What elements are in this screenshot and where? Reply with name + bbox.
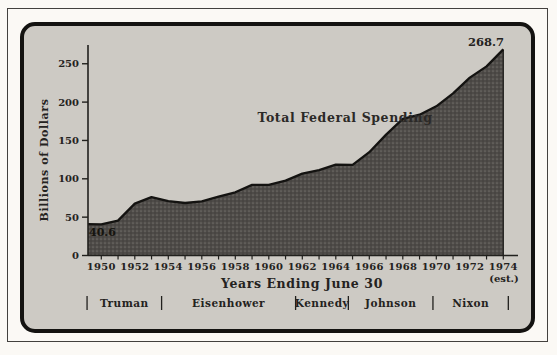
page-background: 0501001502002501950195219541956195819601… — [0, 0, 557, 355]
x-tick-label: 1966 — [355, 261, 384, 272]
president-label-johnson: Johnson — [364, 297, 416, 309]
y-tick-label: 250 — [58, 58, 79, 69]
y-tick-label: 0 — [72, 250, 79, 261]
x-tick-label: 1958 — [221, 261, 250, 272]
spending-area — [88, 49, 503, 255]
x-tick-label: 1972 — [455, 261, 484, 272]
y-tick-label: 150 — [58, 135, 79, 146]
x-tick-label: 1962 — [288, 261, 317, 272]
president-label-truman: Truman — [100, 297, 149, 309]
chart-panel: 0501001502002501950195219541956195819601… — [20, 22, 535, 333]
x-tick-label: 1954 — [154, 261, 183, 272]
president-label-nixon: Nixon — [452, 297, 489, 309]
x-tick-label: 1964 — [321, 261, 350, 272]
y-tick-label: 200 — [58, 97, 79, 108]
estimate-note: (est.) — [478, 273, 530, 284]
x-tick-label: 1968 — [388, 261, 417, 272]
x-tick-label: 1950 — [87, 261, 116, 272]
x-tick-label: 1970 — [422, 261, 451, 272]
president-label-kennedy: Kennedy — [295, 297, 350, 309]
start-value-annotation: 40.6 — [89, 226, 116, 239]
x-axis-title: Years Ending June 30 — [221, 276, 383, 291]
x-tick-label: 1956 — [187, 261, 216, 272]
president-label-eisenhower: Eisenhower — [192, 297, 265, 309]
y-tick-label: 50 — [65, 212, 79, 223]
x-tick-label: 1960 — [254, 261, 283, 272]
end-value-annotation: 268.7 — [444, 35, 504, 49]
series-label: Total Federal Spending — [257, 110, 432, 125]
y-tick-label: 100 — [58, 173, 79, 184]
x-tick-label: 1952 — [120, 261, 149, 272]
x-tick-label: 1974 — [489, 261, 518, 272]
y-axis-title: Billions of Dollars — [38, 98, 51, 221]
